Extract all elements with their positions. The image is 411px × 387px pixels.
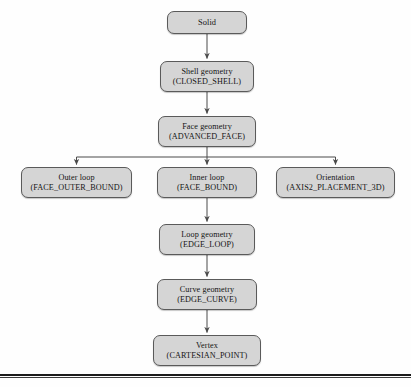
node-outer-loop-label: Outer loop: [58, 173, 94, 183]
footer-rule: [0, 374, 411, 376]
node-loop-geometry-label: Loop geometry: [181, 230, 233, 240]
node-orientation[interactable]: Orientation (AXIS2_PLACEMENT_3D): [276, 167, 395, 198]
node-curve-geometry-entity: (EDGE_CURVE): [177, 295, 237, 305]
node-inner-loop[interactable]: Inner loop (FACE_BOUND): [157, 167, 257, 198]
node-loop-geometry[interactable]: Loop geometry (EDGE_LOOP): [159, 224, 255, 255]
node-solid-label: Solid: [198, 18, 216, 28]
node-face-geometry-entity: (ADVANCED_FACE): [169, 132, 245, 142]
node-orientation-entity: (AXIS2_PLACEMENT_3D): [287, 183, 385, 193]
node-vertex[interactable]: Vertex (CARTESIAN_POINT): [153, 335, 261, 366]
node-shell-geometry-label: Shell geometry: [181, 67, 232, 77]
node-curve-geometry[interactable]: Curve geometry (EDGE_CURVE): [157, 279, 257, 310]
diagram-canvas: Solid Shell geometry (CLOSED_SHELL) Face…: [0, 0, 411, 387]
node-shell-geometry[interactable]: Shell geometry (CLOSED_SHELL): [160, 61, 254, 92]
node-face-geometry-label: Face geometry: [182, 122, 232, 132]
node-face-geometry[interactable]: Face geometry (ADVANCED_FACE): [158, 116, 256, 147]
node-outer-loop[interactable]: Outer loop (FACE_OUTER_BOUND): [21, 167, 132, 198]
node-curve-geometry-label: Curve geometry: [180, 285, 234, 295]
node-loop-geometry-entity: (EDGE_LOOP): [180, 240, 234, 250]
footer-rule-secondary: [0, 377, 411, 378]
node-vertex-entity: (CARTESIAN_POINT): [167, 351, 248, 361]
node-shell-geometry-entity: (CLOSED_SHELL): [173, 77, 241, 87]
node-orientation-label: Orientation: [316, 173, 354, 183]
node-inner-loop-label: Inner loop: [190, 173, 225, 183]
node-outer-loop-entity: (FACE_OUTER_BOUND): [30, 183, 122, 193]
node-inner-loop-entity: (FACE_BOUND): [177, 183, 237, 193]
node-vertex-label: Vertex: [196, 341, 218, 351]
node-solid[interactable]: Solid: [167, 11, 247, 34]
